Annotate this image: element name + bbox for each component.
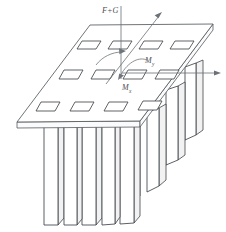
leg-right-mid: [166, 82, 185, 165]
leg-front-1: [44, 118, 64, 225]
diagram-root: F+G M y M x: [0, 0, 226, 232]
perforated-plate-diagram: F+G M y M x: [0, 0, 226, 232]
leg-right-rear: [185, 60, 203, 140]
leg-front-2: [82, 118, 102, 225]
leg-front-5: [102, 118, 120, 225]
leg-front-3: [120, 116, 140, 224]
force-label: F+G: [101, 6, 119, 15]
moment-x-subscript: x: [128, 88, 132, 94]
leg-right-front: [147, 104, 166, 192]
moment-y-subscript: y: [151, 61, 155, 67]
leg-front-4: [64, 119, 82, 225]
